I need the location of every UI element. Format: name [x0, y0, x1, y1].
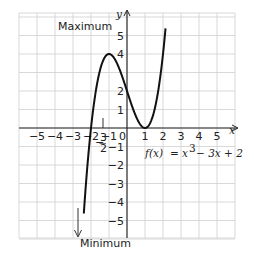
y-tick-label: −1 — [108, 141, 124, 154]
function-curve — [84, 28, 166, 213]
down-arrow-icon — [75, 208, 82, 237]
x-tick-label: 2 — [160, 130, 167, 143]
y-tick-label: 5 — [117, 30, 124, 43]
y-tick-label: −3 — [108, 178, 124, 191]
equation-lhs: f(x) — [144, 147, 163, 159]
y-tick-label: −2 — [108, 159, 124, 172]
y-axis-label: y — [115, 8, 123, 20]
function-graph: −5−4−3−2−11234505421−1−2−3−4−5 Maximum M… — [0, 0, 254, 262]
y-tick-label: −4 — [108, 196, 124, 209]
x-tick-label: 5 — [214, 130, 221, 143]
minimum-label: Minimum — [80, 237, 131, 250]
x-tick-label: 3 — [178, 130, 185, 143]
x-tick-label: 4 — [196, 130, 203, 143]
equation-equals: = — [170, 147, 179, 159]
y-tick-label: 2 — [117, 85, 124, 98]
y-tick-label: 1 — [117, 104, 124, 117]
fraction-marker: − 3 2 — [95, 118, 107, 155]
axes — [19, 10, 238, 238]
x-tick-label: −3 — [65, 130, 81, 143]
y-tick-label: −5 — [108, 215, 124, 228]
equation-x: x — [182, 147, 188, 159]
fraction-denominator: 2 — [100, 142, 107, 155]
equation-exponent: 3 — [189, 142, 196, 154]
x-tick-label: −5 — [29, 130, 45, 143]
equation-label: f(x) = x 3 − 3x + 2 — [144, 142, 243, 159]
x-tick-label: 1 — [142, 130, 149, 143]
x-tick-label: −4 — [47, 130, 63, 143]
x-axis-label: x — [229, 124, 235, 136]
equation-rest: − 3x + 2 — [196, 147, 243, 159]
y-tick-label: 4 — [117, 48, 124, 61]
maximum-label: Maximum — [58, 20, 112, 33]
